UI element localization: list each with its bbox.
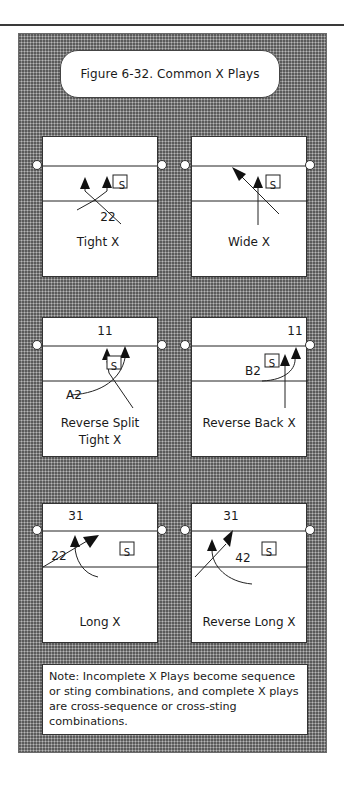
play-name: Wide X xyxy=(192,234,306,251)
setter-marker: S xyxy=(265,544,273,561)
net-post-icon xyxy=(157,525,167,535)
net-post-icon xyxy=(157,340,167,350)
net-post-icon xyxy=(180,525,190,535)
setter-marker: S xyxy=(118,177,126,194)
net-post-icon xyxy=(305,525,315,535)
play-diagram-tight-x: S 22 Tight X xyxy=(42,136,158,277)
wide-x-court-icon xyxy=(192,137,308,278)
figure-title-box: Figure 6-32. Common X Plays xyxy=(60,50,280,98)
note-box: Note: Incomplete X Plays become sequence… xyxy=(42,664,308,735)
player-label: A2 xyxy=(63,387,85,404)
player-label: 42 xyxy=(232,550,254,567)
figure-title: Figure 6-32. Common X Plays xyxy=(80,67,259,81)
player-label: 11 xyxy=(93,323,117,340)
play-name: Reverse Back X xyxy=(192,415,306,432)
player-label: 22 xyxy=(93,209,123,226)
net-post-icon xyxy=(180,340,190,350)
player-label: 11 xyxy=(285,323,305,340)
player-label: 31 xyxy=(220,508,242,525)
play-name: Tight X xyxy=(43,234,153,251)
player-label: 22 xyxy=(48,548,70,565)
tight-x-court-icon xyxy=(43,137,159,278)
play-diagram-wide-x: S Wide X xyxy=(191,136,307,277)
net-post-icon xyxy=(32,160,42,170)
play-name: Long X xyxy=(43,614,157,631)
net-post-icon xyxy=(32,340,42,350)
setter-marker: S xyxy=(268,355,276,372)
net-post-icon xyxy=(32,525,42,535)
setter-marker: S xyxy=(110,358,118,375)
setter-marker: S xyxy=(269,177,277,194)
setter-marker: S xyxy=(123,544,131,561)
note-text: Note: Incomplete X Plays become sequence… xyxy=(49,670,299,728)
net-post-icon xyxy=(157,160,167,170)
play-name-line2: Tight X xyxy=(43,432,157,449)
play-diagram-reverse-long-x: S 31 42 Reverse Long X xyxy=(191,503,307,643)
net-post-icon xyxy=(180,160,190,170)
play-diagram-long-x: S 31 22 Long X xyxy=(42,503,158,643)
top-rule xyxy=(0,24,344,26)
net-post-icon xyxy=(305,340,315,350)
play-diagram-reverse-back-x: S 11 B2 Reverse Back X xyxy=(191,317,307,457)
play-name-line1: Reverse Split xyxy=(43,415,157,432)
play-diagram-reverse-split-tight-x: S 11 A2 Reverse Split Tight X xyxy=(42,317,158,457)
net-post-icon xyxy=(305,160,315,170)
player-label: 31 xyxy=(65,508,87,525)
player-label: B2 xyxy=(242,363,264,380)
play-name: Reverse Long X xyxy=(192,614,306,631)
